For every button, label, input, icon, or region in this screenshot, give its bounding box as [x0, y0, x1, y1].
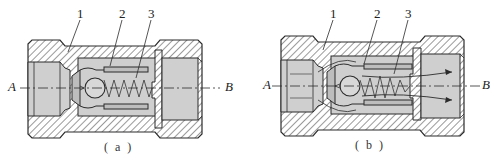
caption-b: ( b ) — [355, 138, 385, 153]
port-a-label-b: A — [263, 77, 271, 93]
part-label-2-b: 2 — [374, 6, 381, 22]
check-valve-diagram — [0, 0, 490, 158]
part-label-1-b: 1 — [330, 6, 337, 22]
port-b-label-a: B — [225, 79, 233, 95]
caption-a: ( a ) — [104, 140, 133, 155]
part-label-3-a: 3 — [148, 6, 155, 22]
part-label-1-a: 1 — [77, 6, 84, 22]
panel-a-drawing — [20, 20, 220, 138]
panel-b-drawing — [272, 20, 480, 136]
port-a-label-a: A — [8, 79, 16, 95]
part-label-3-b: 3 — [405, 6, 412, 22]
part-label-2-a: 2 — [119, 6, 126, 22]
port-b-label-b: B — [482, 77, 490, 93]
